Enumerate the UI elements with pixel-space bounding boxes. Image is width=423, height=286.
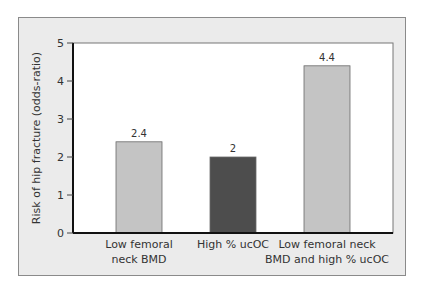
y-axis-title: Risk of hip fracture (odds-ratio) xyxy=(30,52,43,224)
data-label-3: 4.4 xyxy=(319,52,335,63)
y-tick-label: 0 xyxy=(57,227,64,240)
y-tick-label: 1 xyxy=(57,189,64,202)
x-category-label-1: Low femoralneck BMD xyxy=(105,238,173,266)
data-label-1: 2.4 xyxy=(131,128,147,139)
x-category-label-2: High % ucOC xyxy=(197,238,269,251)
bar-2 xyxy=(210,157,256,233)
bar-3 xyxy=(304,66,350,233)
x-category-label-3: Low femoral neckBMD and high % ucOC xyxy=(265,238,389,266)
y-tick-label: 2 xyxy=(57,151,64,164)
bar-1 xyxy=(116,142,162,233)
y-tick-label: 3 xyxy=(57,113,64,126)
data-label-2: 2 xyxy=(230,143,236,154)
y-tick-label: 5 xyxy=(57,37,64,50)
bar-chart: 2.424.4 012345 Low femoralneck BMDHigh %… xyxy=(0,0,423,286)
y-tick-label: 4 xyxy=(57,75,64,88)
